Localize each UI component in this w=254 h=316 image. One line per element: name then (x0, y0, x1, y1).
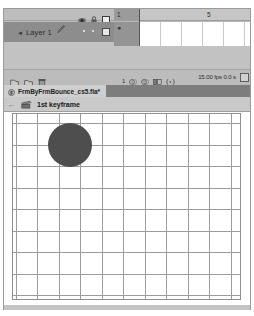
frames-empty-area (114, 46, 250, 69)
frame-cell[interactable] (182, 22, 203, 46)
layer-expand-arrow-icon[interactable]: ◂ (18, 29, 22, 36)
layer-column-header (4, 9, 114, 21)
grid-line-vertical (37, 114, 38, 299)
selected-keyframe-cell[interactable]: ● (114, 22, 140, 46)
grid-line-vertical (209, 114, 210, 299)
grid-line-vertical (166, 114, 167, 299)
grid-line-vertical (102, 114, 103, 299)
grid-line-vertical (123, 114, 124, 299)
grid-line-horizontal (13, 209, 240, 210)
scene-icon[interactable] (21, 95, 32, 113)
grid-line-vertical (188, 114, 189, 299)
document-tab-label: FrmByFrmBounce_cs5.fla* (18, 88, 100, 95)
ruler-tick-1: 1 (117, 10, 121, 20)
breadcrumb: ← 1st keyframe (4, 97, 250, 112)
layer-column: ◂ Layer 1 (4, 9, 114, 69)
stage-area (4, 112, 250, 309)
ruler-tick-5: 5 (207, 10, 211, 20)
layer-row-layer-1[interactable]: ◂ Layer 1 (4, 22, 114, 42)
layer-toggle-dots[interactable] (83, 30, 94, 32)
timeline-toolbar: 1 (4, 69, 250, 85)
frame-cell[interactable] (224, 22, 245, 46)
frame-strip[interactable]: ● (114, 22, 250, 46)
pencil-icon (55, 21, 66, 39)
bouncing-ball[interactable] (48, 123, 92, 167)
layer-lock-dot[interactable] (92, 30, 94, 32)
grid-line-horizontal (13, 295, 240, 296)
grid-line-vertical (145, 114, 146, 299)
layer-column-empty-area (4, 42, 114, 69)
flash-authoring-window: ◂ Layer 1 1 5 (0, 0, 254, 316)
layer-name-label: Layer 1 (26, 28, 52, 37)
grid-line-vertical (231, 114, 232, 299)
stage-canvas[interactable] (12, 113, 241, 300)
timeline-status-text: 15.00 fps 0.0 s (198, 73, 236, 82)
frame-cell[interactable] (161, 22, 182, 46)
grid-line-horizontal (13, 274, 240, 275)
frame-cell[interactable] (140, 22, 161, 46)
breadcrumb-label: 1st keyframe (37, 101, 80, 108)
timeline-ruler[interactable]: 1 5 (114, 9, 250, 21)
keyframe-marker-icon: ● (117, 24, 121, 31)
grid-line-vertical (16, 114, 17, 299)
grid-line-horizontal (13, 123, 240, 124)
document-tab[interactable]: FrmByFrmBounce_cs5.fla* (4, 85, 106, 97)
grid-line-horizontal (13, 188, 240, 189)
grid-line-horizontal (13, 252, 240, 253)
grid-line-horizontal (13, 166, 240, 167)
stage-bottom-edge (4, 305, 250, 310)
timeline-frames-area: 1 5 ● (114, 9, 250, 69)
grid-line-horizontal (13, 231, 240, 232)
back-arrow-icon[interactable]: ← (8, 101, 15, 108)
timeline-panel: ◂ Layer 1 1 5 (4, 9, 250, 85)
frame-cell[interactable] (203, 22, 224, 46)
timeline-options-icon[interactable] (240, 73, 249, 82)
layer-outline-square-icon[interactable] (102, 28, 110, 36)
layer-visibility-dot[interactable] (83, 30, 85, 32)
document-tab-bar: FrmByFrmBounce_cs5.fla* (4, 85, 250, 97)
